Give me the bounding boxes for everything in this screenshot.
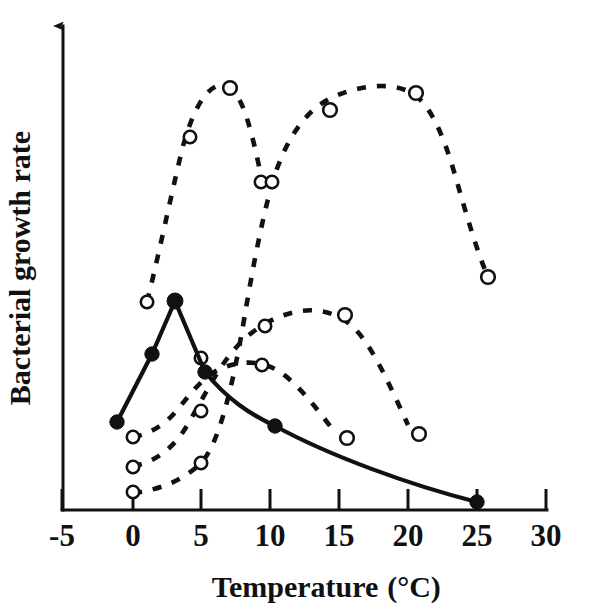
y-axis-title: Bacterial growth rate (3, 131, 36, 405)
tick-label-minus5: -5 (49, 518, 75, 553)
bacterial-growth-rate-figure: -5 0 5 10 15 20 25 30 Temperature (°C) B… (0, 0, 595, 615)
data-point (268, 419, 282, 433)
tick-label-15: 15 (324, 518, 355, 553)
x-axis-tick-labels: -5 0 5 10 15 20 25 30 (49, 518, 561, 553)
series-moderate-thermophile (127, 308, 426, 473)
series-psychrotroph (141, 81, 267, 308)
data-point (195, 457, 207, 469)
moderate-thermophile-curve (133, 310, 408, 466)
data-point (481, 270, 495, 284)
tick-label-0: 0 (125, 518, 141, 553)
tick-label-25: 25 (462, 518, 493, 553)
data-point (167, 293, 183, 309)
data-point (184, 131, 196, 143)
data-point (127, 486, 139, 498)
data-point (223, 81, 237, 95)
data-point (127, 431, 139, 443)
data-point (256, 359, 268, 371)
data-point (470, 495, 484, 509)
series-mesophile (127, 86, 495, 498)
data-point (145, 347, 159, 361)
psychrophile-curve (117, 301, 477, 502)
growth-rate-chart: -5 0 5 10 15 20 25 30 Temperature (°C) B… (0, 0, 595, 615)
data-point (198, 365, 212, 379)
tick-label-30: 30 (531, 518, 562, 553)
data-point (323, 103, 337, 117)
data-point (409, 86, 423, 100)
data-point (195, 405, 207, 417)
data-point (412, 427, 426, 441)
mesophile-curve (133, 86, 488, 493)
tick-label-5: 5 (193, 518, 209, 553)
data-point (259, 320, 271, 332)
data-point (338, 308, 352, 322)
data-point (141, 296, 153, 308)
data-point (340, 431, 354, 445)
tick-label-10: 10 (255, 518, 286, 553)
series-thermophile (127, 352, 354, 445)
data-point (266, 176, 278, 188)
data-point (127, 461, 139, 473)
series-psychrophile (110, 293, 484, 509)
x-axis-title: Temperature (212, 570, 379, 603)
psychrotroph-curve (147, 85, 261, 302)
x-axis-unit: (°C) (387, 570, 441, 604)
data-point (110, 415, 124, 429)
tick-label-20: 20 (393, 518, 424, 553)
